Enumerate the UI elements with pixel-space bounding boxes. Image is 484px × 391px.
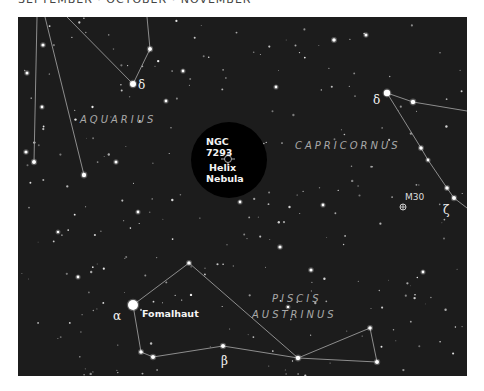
star [187, 261, 191, 265]
faint-star [281, 142, 283, 144]
faint-star [79, 356, 81, 358]
faint-star [452, 352, 454, 354]
faint-star [181, 299, 182, 300]
faint-star [297, 373, 299, 375]
faint-star [268, 203, 270, 205]
faint-star [74, 110, 75, 111]
faint-star [149, 212, 151, 214]
faint-star [334, 212, 336, 214]
faint-star [266, 142, 267, 143]
star [239, 201, 242, 204]
faint-star [304, 57, 306, 59]
nebula-name-line1: Helix [209, 162, 236, 173]
faint-star [124, 258, 125, 259]
faint-star [170, 127, 172, 129]
faint-star [120, 84, 122, 86]
greek-letter-label: δ [138, 78, 145, 92]
faint-star [49, 73, 50, 74]
faint-star [417, 277, 419, 279]
faint-star [29, 182, 31, 184]
faint-star [60, 336, 62, 338]
faint-star [393, 329, 395, 331]
faint-star [67, 229, 69, 231]
star [332, 38, 336, 42]
star [221, 344, 225, 348]
faint-star [462, 193, 463, 194]
faint-star [171, 70, 173, 72]
faint-star [43, 126, 45, 128]
faint-star [328, 68, 329, 69]
faint-star [125, 146, 126, 147]
faint-star [191, 266, 192, 267]
faint-star [42, 179, 44, 181]
faint-star [31, 97, 32, 98]
faint-star [272, 350, 274, 352]
faint-star [108, 34, 110, 36]
faint-star [100, 231, 101, 232]
faint-star [204, 268, 206, 270]
faint-star [221, 88, 223, 90]
faint-star [97, 263, 98, 264]
star [182, 70, 185, 73]
faint-star [357, 185, 359, 187]
faint-star [272, 110, 274, 112]
faint-star [97, 161, 99, 163]
star-map[interactable]: NGC 7293 Helix Nebula AQUARIUSCAPRICORNU… [18, 17, 467, 376]
faint-star [285, 369, 286, 370]
faint-star [37, 322, 39, 324]
faint-star [354, 95, 356, 97]
faint-star [323, 278, 325, 280]
faint-star [152, 162, 154, 164]
faint-star [400, 106, 402, 108]
faint-star [85, 368, 86, 369]
faint-star [171, 199, 173, 201]
faint-star [346, 330, 347, 331]
faint-star [418, 345, 420, 347]
faint-star [38, 242, 39, 243]
faint-star [410, 285, 411, 286]
faint-star [80, 331, 81, 332]
faint-star [283, 221, 285, 223]
faint-star [157, 60, 159, 62]
faint-star [189, 78, 191, 80]
faint-star [125, 256, 127, 258]
faint-star [406, 282, 408, 284]
star [139, 350, 143, 354]
faint-star [102, 302, 104, 304]
faint-star [410, 321, 412, 323]
faint-star [153, 301, 155, 303]
star [128, 300, 138, 310]
faint-star [165, 281, 167, 283]
faint-star [418, 184, 419, 185]
faint-star [248, 334, 249, 335]
faint-star [116, 370, 117, 371]
faint-star [361, 335, 362, 336]
faint-star [103, 268, 105, 270]
faint-star [108, 153, 110, 155]
faint-star [42, 128, 44, 130]
faint-star [278, 221, 280, 223]
star [82, 173, 86, 177]
faint-star [21, 273, 22, 274]
faint-star [96, 308, 97, 309]
faint-star [299, 52, 300, 53]
helix-nebula-highlight[interactable] [191, 122, 267, 198]
faint-star [180, 194, 182, 196]
star [365, 34, 368, 37]
faint-star [416, 184, 418, 186]
faint-star [74, 118, 76, 120]
star [24, 150, 27, 153]
faint-star [405, 295, 407, 297]
faint-star [260, 54, 261, 55]
constellation-line [45, 17, 84, 175]
faint-star [259, 236, 261, 238]
faint-star [175, 295, 176, 296]
faint-star [233, 265, 234, 266]
faint-star [349, 86, 350, 87]
faint-star [85, 206, 86, 207]
faint-star [225, 77, 226, 78]
star [151, 355, 155, 359]
faint-star [93, 310, 94, 311]
faint-star [445, 125, 447, 127]
faint-star [69, 322, 71, 324]
